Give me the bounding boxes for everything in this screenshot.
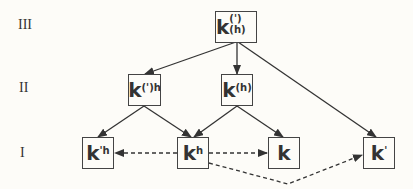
node-kp: k'	[363, 137, 395, 169]
node-kph: k'h	[82, 137, 114, 169]
node-mid-right: k(h)	[221, 74, 253, 106]
edge-midleft-kh	[144, 106, 191, 137]
edge-midleft-kph	[98, 106, 144, 137]
edge-top-midleft	[145, 42, 236, 74]
node-mid-left: k(')h	[128, 74, 161, 106]
level-label-iii: III	[18, 17, 32, 33]
level-label-ii: II	[19, 80, 28, 96]
node-top: k(')(h)	[215, 11, 257, 43]
edge-top-kp	[238, 42, 376, 137]
edge-midright-kh	[194, 106, 237, 137]
node-k: k	[268, 137, 300, 169]
node-kh: kh	[177, 137, 209, 169]
edge-midright-k	[237, 106, 283, 137]
level-label-i: I	[20, 145, 25, 161]
